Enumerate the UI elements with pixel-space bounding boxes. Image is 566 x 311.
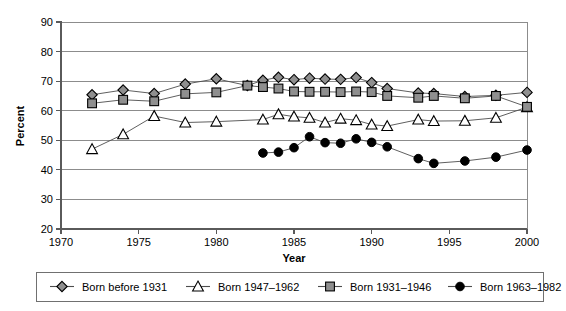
legend-marker-circle-filled-black	[456, 282, 465, 291]
y-axis: 2030405060708090	[41, 16, 61, 235]
line-chart: 2030405060708090 19701975198019851990199…	[0, 0, 566, 311]
data-point	[523, 102, 532, 111]
data-point	[321, 87, 330, 96]
data-point	[430, 159, 439, 168]
data-point	[304, 73, 314, 83]
data-point	[352, 135, 361, 144]
data-point	[492, 92, 501, 101]
chart-legend[interactable]: Born before 1931Born 1947–1962Born 1931–…	[36, 272, 561, 301]
y-axis-title: Percent	[14, 105, 26, 146]
x-tick-label-1990: 1990	[359, 236, 383, 248]
data-point	[491, 112, 502, 122]
data-point	[366, 119, 377, 129]
data-point	[336, 88, 345, 97]
data-point	[367, 138, 376, 147]
legend-label: Born 1963–1982	[480, 281, 561, 293]
x-tick-label-1980: 1980	[204, 236, 228, 248]
data-point	[413, 114, 424, 124]
x-tick-label-2000: 2000	[515, 236, 539, 248]
data-point	[492, 153, 501, 162]
y-tick-label-40: 40	[41, 164, 53, 176]
data-point	[88, 99, 97, 108]
legend-label: Born 1947–1962	[218, 281, 299, 293]
data-point	[414, 154, 423, 163]
y-tick-label-80: 80	[41, 46, 53, 58]
data-point	[320, 74, 330, 84]
data-point	[243, 81, 252, 90]
data-point	[383, 92, 392, 101]
y-tick-label-50: 50	[41, 134, 53, 146]
data-series-group	[87, 72, 533, 168]
data-point	[290, 87, 299, 96]
data-point	[523, 146, 532, 155]
data-point	[87, 144, 98, 154]
y-tick-label-90: 90	[41, 16, 53, 28]
data-point	[259, 83, 268, 92]
y-tick-label-20: 20	[41, 223, 53, 235]
data-point	[149, 111, 160, 121]
data-point	[305, 87, 314, 96]
legend-label: Born before 1931	[82, 281, 167, 293]
data-point	[180, 79, 190, 89]
data-point	[335, 74, 345, 84]
y-tick-label-60: 60	[41, 105, 53, 117]
data-point	[274, 84, 283, 93]
data-point	[366, 77, 376, 87]
data-point	[522, 87, 532, 97]
series-2	[87, 102, 533, 154]
legend-marker-square-filled-gray	[326, 282, 335, 291]
chart-figure: 2030405060708090 19701975198019851990199…	[0, 0, 566, 311]
data-point	[460, 94, 469, 103]
x-tick-label-1985: 1985	[282, 236, 306, 248]
x-tick-label-1975: 1975	[126, 236, 150, 248]
x-tick-label-1995: 1995	[437, 236, 461, 248]
data-point	[211, 74, 221, 84]
data-point	[461, 157, 470, 166]
x-axis: 1970197519801985199019952000	[49, 229, 539, 248]
data-point	[290, 143, 299, 152]
data-point	[383, 142, 392, 151]
data-point	[259, 149, 268, 158]
data-point	[335, 113, 346, 123]
data-point	[336, 139, 345, 148]
legend-label: Born 1931–1946	[350, 281, 431, 293]
data-point	[321, 138, 330, 147]
data-point	[305, 132, 314, 141]
x-axis-title: Year	[282, 252, 306, 264]
data-point	[212, 88, 221, 97]
y-tick-label-70: 70	[41, 75, 53, 87]
data-point	[367, 88, 376, 97]
data-point	[150, 97, 159, 106]
data-point	[289, 74, 299, 84]
data-point	[119, 95, 128, 104]
data-point	[352, 87, 361, 96]
data-point	[181, 89, 190, 98]
data-point	[429, 92, 438, 101]
data-point	[118, 85, 128, 95]
series-4	[259, 132, 532, 167]
data-point	[118, 129, 129, 139]
x-tick-label-1970: 1970	[49, 236, 73, 248]
y-tick-label-30: 30	[41, 193, 53, 205]
data-point	[274, 148, 283, 157]
data-point	[414, 93, 423, 102]
data-point	[258, 114, 269, 124]
